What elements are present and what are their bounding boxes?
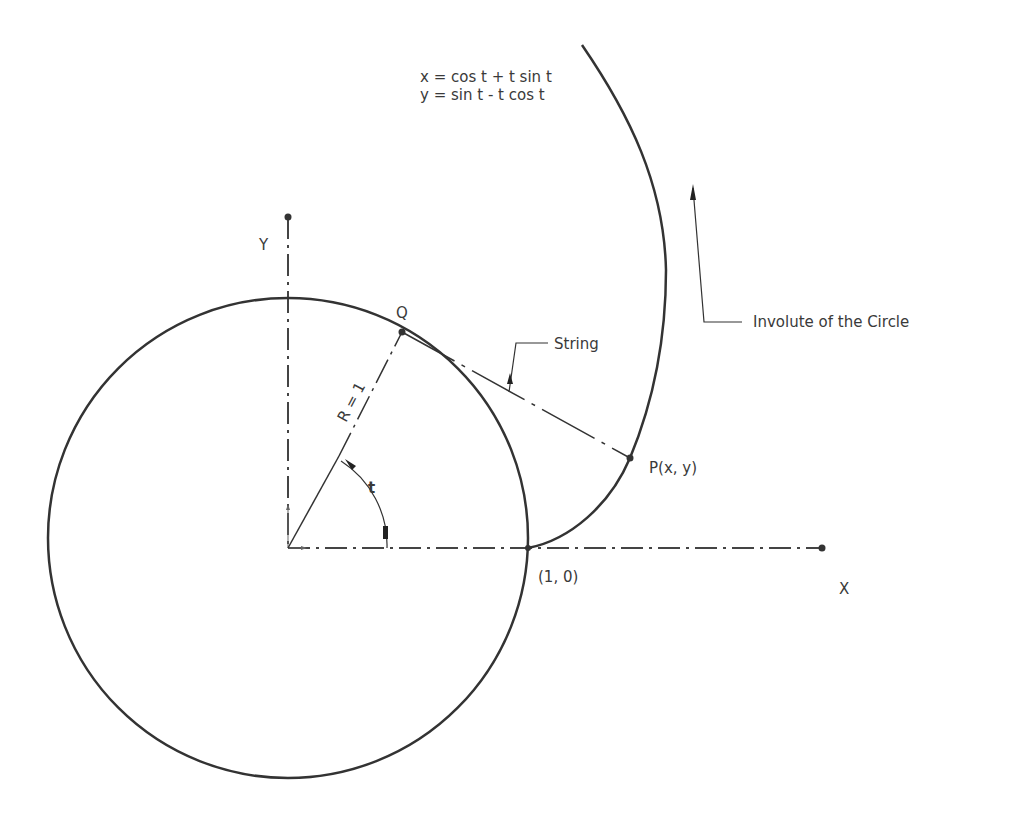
string-callout-leader: [507, 343, 548, 392]
equation-y: y = sin t - t cos t: [420, 86, 545, 104]
radius-label: R = 1: [334, 379, 370, 425]
angle-arc: [341, 459, 388, 548]
angle-label: t: [368, 479, 375, 497]
string-callout-label: String: [554, 335, 599, 353]
x-axis-label: X: [839, 580, 849, 598]
point-p-marker: [627, 455, 634, 462]
origin-arrows-icon: [286, 504, 307, 550]
point-p-label: P(x, y): [649, 459, 697, 477]
start-point-label: (1, 0): [538, 568, 578, 586]
radius-line: [288, 332, 402, 548]
y-axis-endpoint: [285, 214, 292, 221]
arrow-icon: [690, 184, 696, 200]
x-axis-endpoint: [819, 545, 826, 552]
involute-callout-label: Involute of the Circle: [753, 313, 909, 331]
y-axis: [285, 214, 292, 549]
involute-callout-leader: [690, 184, 742, 322]
arrow-icon: [507, 373, 513, 384]
equation-x: x = cos t + t sin t: [420, 68, 552, 86]
involute-curve: [528, 45, 666, 548]
start-point-marker: [525, 545, 531, 551]
involute-diagram: x = cos t + t sin t y = sin t - t cos t …: [0, 0, 1027, 833]
x-axis: [288, 545, 826, 552]
angle-arrow-icon: [383, 526, 388, 539]
y-axis-label: Y: [258, 236, 269, 254]
point-q-label: Q: [396, 304, 408, 322]
